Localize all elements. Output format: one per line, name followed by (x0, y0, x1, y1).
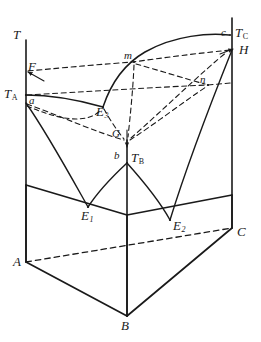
liquidus-curve-A-to-E1 (26, 103, 88, 207)
label-point-n: n (200, 74, 206, 85)
label-eutectic-E1-base: E (81, 208, 89, 223)
liquidus-valley-TA-to-E3 (26, 95, 103, 107)
label-corner-C: C (237, 225, 246, 238)
label-temperature-axis: T (13, 28, 20, 41)
point-marker-TB (126, 162, 128, 164)
label-melting-point-B-subscript: B (138, 157, 144, 166)
base-edge-B-C (127, 228, 232, 316)
label-eutectic-E2-subscript: 2 (181, 225, 186, 234)
point-marker-E2 (169, 219, 171, 221)
label-point-G: G (112, 128, 120, 139)
isotherm-TA-to-n (27, 85, 208, 95)
point-marker-TA (25, 94, 27, 96)
label-eutectic-E3-base: E (96, 104, 104, 119)
label-point-a: a (29, 95, 35, 106)
eutectic-plane-edge-B-C (127, 195, 232, 215)
point-marker-n (207, 84, 209, 86)
label-eutectic-E1: E1 (81, 209, 93, 224)
label-point-F: F (28, 60, 36, 73)
label-melting-point-C-subscript: C (242, 32, 248, 41)
label-eutectic-E3: E3 (96, 105, 108, 120)
label-corner-B: B (121, 319, 129, 332)
tie-line-G-to-n (130, 87, 206, 140)
tie-line-m-to-G (128, 65, 134, 137)
label-point-c: c (221, 27, 226, 38)
base-edge-A-C-hidden (26, 228, 232, 262)
base-edge-A-B (26, 262, 127, 316)
ray-G-to-H (131, 52, 227, 138)
label-eutectic-E2-base: E (173, 218, 181, 233)
label-point-m: m (124, 50, 132, 61)
ternary-phase-diagram-figure: T F TA a G b TB m n c TC H E3 E1 E2 A B … (0, 0, 261, 342)
label-eutectic-E1-subscript: 1 (89, 215, 94, 224)
label-eutectic-E2: E2 (173, 219, 185, 234)
label-melting-point-A-subscript: A (11, 93, 17, 102)
tie-line-a-to-G (27, 104, 124, 140)
label-corner-A: A (13, 255, 21, 268)
liquidus-curve-B-to-E1 (88, 163, 127, 207)
liquidus-valley-E3-to-TC (103, 34, 229, 107)
label-melting-point-C: TC (235, 26, 248, 41)
point-marker-m (133, 61, 135, 63)
point-marker-TC (229, 34, 231, 36)
label-point-H: H (239, 43, 248, 56)
label-eutectic-E3-subscript: 3 (104, 111, 109, 120)
tie-line-m-to-n (136, 64, 205, 84)
eutectic-plane-edge-A-B (26, 185, 127, 215)
label-melting-point-B: TB (131, 151, 144, 166)
label-point-b: b (114, 150, 120, 161)
label-melting-point-A: TA (4, 87, 18, 102)
